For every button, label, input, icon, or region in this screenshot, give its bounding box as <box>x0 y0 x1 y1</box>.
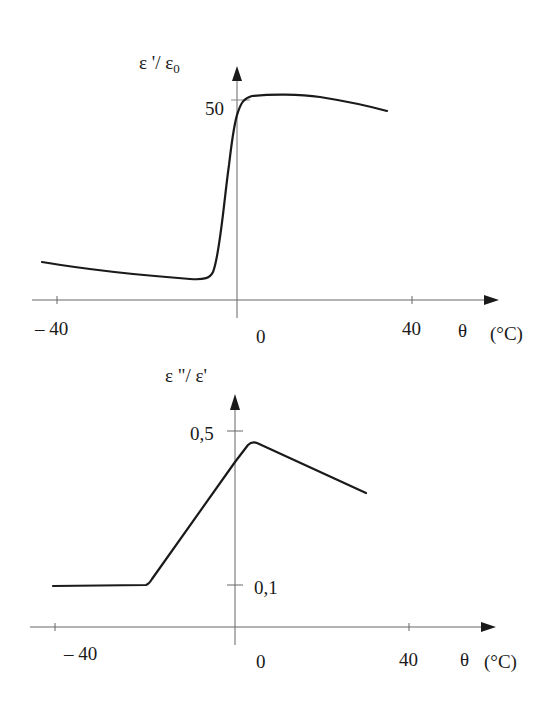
figure-canvas <box>0 0 558 720</box>
top-y-axis-label-sub: 0 <box>173 61 180 76</box>
bottom-xtick-label-0: 0 <box>256 652 266 671</box>
top-xtick-label-0: 0 <box>256 327 266 346</box>
bottom-ytick-label-01: 0,1 <box>254 578 278 597</box>
bottom-x-axis-arrow-icon <box>481 622 496 632</box>
bottom-curve <box>53 442 366 586</box>
top-ytick-label-50: 50 <box>205 99 224 118</box>
top-y-axis-arrow-icon <box>232 66 242 81</box>
bottom-xtick-label-m40: – 40 <box>64 644 97 663</box>
top-x-axis-unit: (°C) <box>490 324 523 343</box>
bottom-chart <box>30 394 496 645</box>
top-chart <box>32 66 499 318</box>
top-x-axis-label: θ <box>458 321 467 340</box>
bottom-x-axis-unit: (°C) <box>484 652 517 671</box>
top-y-axis-label: ε '/ ε0 <box>139 53 180 75</box>
top-y-axis-label-main: ε '/ ε <box>139 52 173 73</box>
top-xtick-label-40: 40 <box>402 319 421 338</box>
top-curve <box>42 95 387 280</box>
bottom-y-axis-arrow-icon <box>230 394 240 410</box>
bottom-xtick-label-40: 40 <box>399 650 418 669</box>
top-xtick-label-m40: – 40 <box>35 319 68 338</box>
bottom-x-axis-label: θ <box>460 650 469 669</box>
bottom-ytick-label-05: 0,5 <box>190 424 214 443</box>
top-x-axis-arrow-icon <box>484 295 499 305</box>
bottom-y-axis-label: ε "/ ε' <box>165 366 207 385</box>
